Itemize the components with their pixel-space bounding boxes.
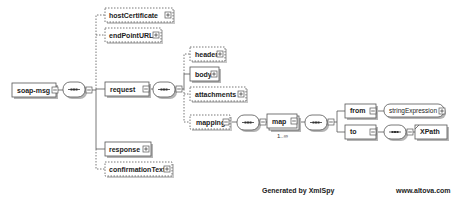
element-response[interactable]: response bbox=[105, 142, 153, 158]
element-soap-msg[interactable]: soap-msg bbox=[12, 83, 58, 99]
element-label: map bbox=[272, 118, 286, 126]
type-label: stringExpression bbox=[389, 107, 437, 115]
expand-icon[interactable] bbox=[165, 12, 171, 18]
element-label: header bbox=[195, 51, 218, 58]
expand-icon[interactable] bbox=[217, 51, 223, 57]
element-mapping[interactable]: mapping bbox=[190, 115, 232, 131]
multiplicity-label: 1..∞ bbox=[277, 133, 288, 139]
collapse-icon[interactable] bbox=[407, 129, 413, 135]
element-label: body bbox=[195, 71, 212, 79]
collapse-icon[interactable] bbox=[260, 119, 266, 125]
element-to[interactable]: to bbox=[345, 125, 378, 141]
element-label: hostCertificate bbox=[109, 12, 158, 19]
collapse-icon[interactable] bbox=[370, 129, 376, 135]
element-label: response bbox=[109, 146, 140, 154]
collapse-icon[interactable] bbox=[176, 86, 182, 92]
element-label: XPath bbox=[420, 128, 440, 135]
type-stringExpression[interactable]: stringExpression bbox=[384, 104, 446, 119]
expand-icon[interactable] bbox=[164, 166, 170, 172]
sequence-compositor[interactable] bbox=[237, 115, 266, 132]
collapse-icon[interactable] bbox=[370, 108, 376, 114]
schema-diagram: soap-msg hostCertificate endPointURL req… bbox=[0, 0, 464, 202]
collapse-icon[interactable] bbox=[143, 86, 149, 92]
expand-icon[interactable] bbox=[153, 32, 159, 38]
element-confirmationText[interactable]: confirmationText bbox=[105, 162, 174, 178]
element-from[interactable]: from bbox=[345, 104, 378, 120]
website-label: www.altova.com bbox=[395, 187, 451, 194]
expand-icon[interactable] bbox=[143, 146, 149, 152]
collapse-icon[interactable] bbox=[328, 119, 334, 125]
element-attachments[interactable]: attachments bbox=[190, 87, 248, 103]
element-label: endPointURL bbox=[109, 32, 154, 39]
collapse-icon[interactable] bbox=[223, 119, 229, 125]
element-body[interactable]: body bbox=[190, 67, 221, 83]
sequence-compositor[interactable] bbox=[153, 82, 182, 99]
element-XPath[interactable]: XPath bbox=[415, 125, 449, 141]
expand-icon[interactable] bbox=[211, 71, 217, 77]
collapse-icon[interactable] bbox=[52, 87, 58, 93]
element-label: mapping bbox=[196, 119, 225, 127]
element-hostCertificate[interactable]: hostCertificate bbox=[105, 8, 175, 24]
element-label: request bbox=[110, 86, 136, 94]
expand-icon[interactable] bbox=[238, 91, 244, 97]
element-label: to bbox=[350, 128, 357, 135]
element-label: confirmationText bbox=[109, 166, 166, 173]
element-request[interactable]: request bbox=[105, 82, 151, 98]
sequence-compositor[interactable] bbox=[305, 115, 334, 132]
expand-icon[interactable] bbox=[439, 108, 445, 114]
element-map[interactable]: map 1..∞ bbox=[267, 114, 301, 139]
collapse-icon[interactable] bbox=[86, 87, 92, 93]
collapse-icon[interactable] bbox=[291, 118, 297, 124]
element-header[interactable]: header bbox=[190, 47, 227, 63]
element-endPointURL[interactable]: endPointURL bbox=[105, 28, 163, 44]
element-label: attachments bbox=[195, 91, 236, 98]
element-label: soap-msg bbox=[17, 87, 50, 95]
element-label: from bbox=[350, 107, 366, 114]
generated-by-label: Generated by XmlSpy bbox=[262, 187, 334, 195]
sequence-compositor[interactable] bbox=[63, 82, 92, 99]
sequence-compositor[interactable] bbox=[384, 125, 413, 141]
